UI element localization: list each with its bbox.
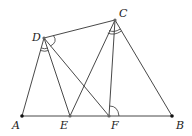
angle-mark-D-AE-inner [41, 48, 47, 49]
segment-CE [70, 20, 115, 116]
segments [22, 20, 172, 116]
point-B [170, 114, 174, 118]
segment-DA [22, 38, 44, 116]
segment-DF [44, 38, 109, 116]
label-F: F [110, 119, 119, 132]
segment-DC [44, 20, 115, 38]
point-F [107, 114, 110, 117]
label-E: E [59, 119, 68, 132]
point-E [68, 114, 71, 117]
angle-mark-F-CB [110, 106, 119, 116]
points [20, 18, 174, 117]
angle-mark-D-CF [51, 36, 56, 46]
point-C [113, 18, 116, 21]
label-B: B [175, 119, 184, 132]
angle-mark-D-AE-outer [41, 51, 49, 52]
segment-DE [44, 38, 70, 116]
point-D [42, 36, 45, 39]
geometry-diagram: A E F B D C [0, 0, 192, 136]
label-A: A [11, 119, 20, 132]
label-D: D [31, 31, 41, 44]
segment-CB [115, 20, 172, 116]
point-A [20, 114, 24, 118]
labels: A E F B D C [11, 7, 184, 132]
label-C: C [119, 7, 128, 20]
